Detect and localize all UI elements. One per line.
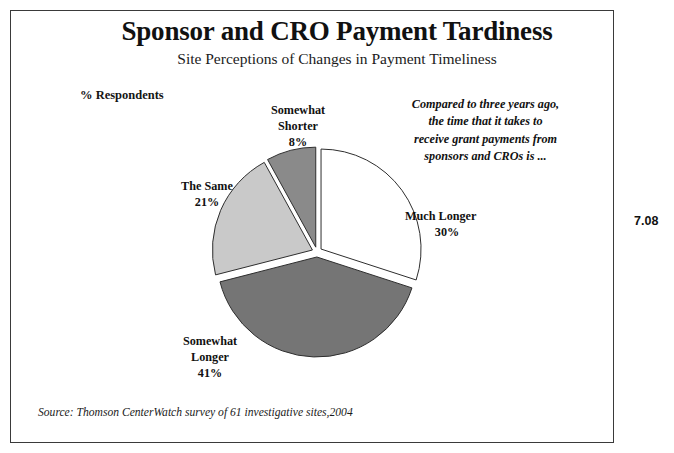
pie-label-somewhat-shorter-line1: Somewhat (248, 102, 348, 118)
pie-label-somewhat-longer-line1: Somewhat (150, 333, 270, 349)
axis-caption-respondents: % Respondents (80, 88, 164, 103)
pie-label-the-same: The Same 21% (152, 178, 262, 210)
annotation-line-4: sponsors and CROs is ... (378, 148, 593, 165)
pie-label-somewhat-longer-line2: Longer (150, 349, 270, 365)
pie-label-much-longer-line1: Much Longer (405, 208, 525, 224)
annotation-line-1: Compared to three years ago, (378, 96, 593, 113)
pie-label-the-same-line1: The Same (152, 178, 262, 194)
pie-label-much-longer-value: 30% (405, 224, 489, 240)
question-annotation: Compared to three years ago, the time th… (378, 96, 593, 165)
pie-label-the-same-value: 21% (152, 194, 262, 210)
page-number: 7.08 (634, 214, 658, 228)
pie-label-much-longer: Much Longer 30% (405, 208, 525, 240)
page-subtitle: Site Perceptions of Changes in Payment T… (0, 50, 674, 68)
page-title: Sponsor and CRO Payment Tardiness (0, 16, 674, 47)
annotation-line-2: the time that it takes to (378, 113, 593, 130)
pie-label-somewhat-shorter: Somewhat Shorter 8% (248, 102, 348, 151)
source-note: Source: Thomson CenterWatch survey of 61… (38, 406, 353, 419)
annotation-line-3: receive grant payments from (378, 131, 593, 148)
pie-label-somewhat-longer: Somewhat Longer 41% (150, 333, 270, 382)
pie-label-somewhat-shorter-value: 8% (248, 134, 348, 150)
pie-label-somewhat-longer-value: 41% (150, 365, 270, 381)
pie-label-somewhat-shorter-line2: Shorter (248, 118, 348, 134)
